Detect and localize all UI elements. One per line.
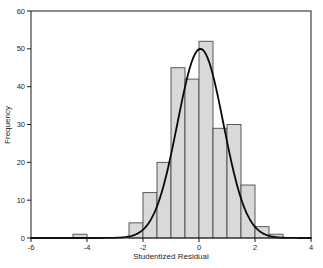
x-tick-label: -4	[84, 243, 91, 252]
histogram-bar	[143, 193, 157, 238]
y-tick-label: 10	[17, 196, 25, 205]
x-tick-label: -6	[28, 243, 35, 252]
x-tick-label: 0	[197, 243, 201, 252]
histogram-plot: -6-4-20240102030405060 Studentized Resid…	[0, 0, 323, 268]
x-tick-label: -2	[140, 243, 147, 252]
x-tick-label: 2	[253, 243, 257, 252]
y-tick-label: 40	[17, 82, 25, 91]
x-axis-title: Studentized Residual	[133, 252, 209, 261]
y-tick-label: 60	[17, 7, 25, 16]
x-tick-label: 4	[309, 243, 313, 252]
histogram-bar	[227, 125, 241, 239]
histogram-bars	[73, 41, 283, 238]
histogram-figure: -6-4-20240102030405060 Studentized Resid…	[0, 0, 323, 268]
y-tick-label: 20	[17, 158, 25, 167]
histogram-bar	[185, 79, 199, 238]
y-tick-label: 0	[21, 234, 25, 243]
histogram-bar	[241, 185, 255, 238]
y-axis-title: Frequency	[3, 106, 12, 144]
histogram-bar	[213, 128, 227, 238]
y-tick-label: 30	[17, 120, 25, 129]
y-tick-label: 50	[17, 44, 25, 53]
